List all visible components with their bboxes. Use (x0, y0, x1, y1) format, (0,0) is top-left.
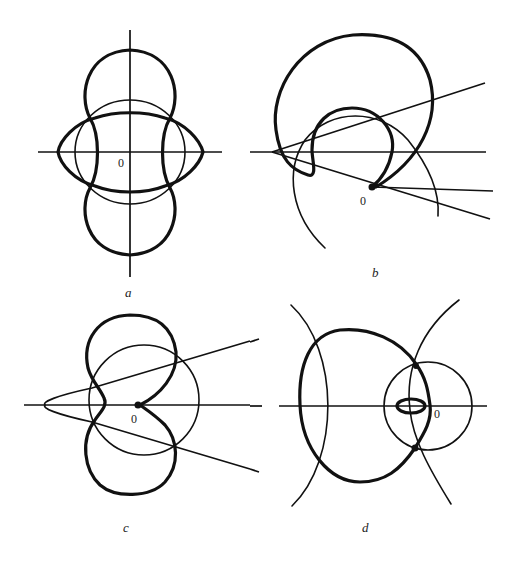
panel-c-origin-label: 0 (131, 412, 137, 426)
panel-d-origin-label: 0 (434, 407, 440, 421)
panel-a-origin-label: 0 (118, 156, 124, 170)
panel-c: 0 c (24, 315, 250, 535)
panel-b-label: b (372, 265, 379, 280)
panel-d-stub-lower (250, 469, 259, 472)
panel-b-origin-label: 0 (360, 194, 366, 208)
panel-a: 0 a (38, 30, 222, 300)
panel-d-label: d (362, 520, 369, 535)
panel-d-right-arc (409, 300, 459, 504)
panel-d-intersect-dot-bottom (412, 445, 419, 452)
panel-c-origin-dot (135, 402, 142, 409)
panel-b: 0 b (250, 35, 493, 280)
panel-d-stub-upper (250, 339, 259, 342)
panel-b-origin-dot (369, 184, 376, 191)
figure-canvas: 0 a 0 b 0 c (0, 0, 515, 563)
panel-b-outer-curve (275, 35, 432, 187)
panel-d-intersect-dot-top (413, 363, 419, 369)
panel-c-label: c (123, 520, 129, 535)
panel-a-label: a (125, 285, 132, 300)
panel-d: 0 d (250, 300, 487, 535)
